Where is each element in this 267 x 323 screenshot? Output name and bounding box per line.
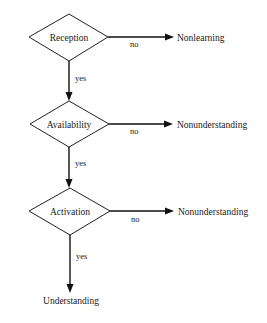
edge-availability-yes: yes: [66, 147, 87, 188]
edge-label-yes: yes: [75, 158, 86, 168]
node-label-reception: Reception: [50, 33, 89, 43]
arrowhead-icon: [164, 121, 173, 128]
arrowhead-icon: [66, 92, 73, 101]
arrowhead-icon: [165, 34, 174, 41]
edge-availability-no: no: [109, 121, 173, 137]
decision-availability: Availability: [30, 101, 109, 147]
outcome-understanding: Understanding: [43, 296, 99, 306]
node-label-availability: Availability: [47, 120, 92, 130]
edge-reception-no: no: [108, 34, 174, 50]
arrowhead-icon: [66, 179, 73, 188]
outcome-nonunderstanding-1: Nonunderstanding: [177, 120, 247, 130]
arrowhead-icon: [165, 208, 174, 215]
edge-label-no: no: [131, 214, 140, 224]
edge-label-no: no: [130, 39, 139, 49]
flowchart: Reception no Nonlearning yes Availabilit…: [0, 0, 267, 323]
edge-activation-yes: yes: [67, 235, 88, 293]
edge-label-yes: yes: [75, 73, 86, 83]
arrowhead-icon: [67, 284, 74, 293]
edge-activation-no: no: [110, 208, 174, 225]
outcome-nonunderstanding-2: Nonunderstanding: [178, 207, 248, 217]
decision-reception: Reception: [29, 14, 108, 61]
node-label-activation: Activation: [50, 207, 90, 217]
outcome-nonlearning: Nonlearning: [177, 33, 225, 43]
edge-reception-yes: yes: [66, 61, 87, 101]
decision-activation: Activation: [29, 188, 110, 235]
edge-label-yes: yes: [76, 251, 87, 261]
edge-label-no: no: [130, 126, 139, 136]
